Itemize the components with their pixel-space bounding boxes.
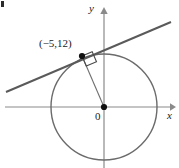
origin-label: 0 bbox=[95, 111, 101, 122]
y-axis-label: y bbox=[89, 3, 94, 14]
x-axis-label: x bbox=[167, 110, 172, 121]
figure-canvas bbox=[0, 0, 179, 168]
math-figure-circle-tangent: (−5,12) y x 0 bbox=[0, 0, 179, 168]
y-axis-arrow bbox=[100, 7, 107, 14]
origin-point-dot bbox=[101, 104, 107, 110]
tangent-line bbox=[6, 22, 171, 92]
tangent-point-label: (−5,12) bbox=[39, 38, 72, 49]
tangency-point-dot bbox=[79, 53, 85, 59]
